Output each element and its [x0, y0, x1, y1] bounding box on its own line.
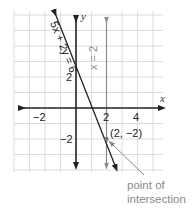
intersection-point: [104, 137, 108, 141]
annotation-line-1: point of: [127, 178, 186, 192]
annotation-text: point of intersection: [127, 178, 186, 206]
x-tick-4: 4: [133, 111, 139, 123]
x-axis-label: x: [159, 92, 165, 104]
x-tick-2: 2: [103, 111, 109, 123]
annotation-line-2: intersection: [127, 192, 186, 206]
line-label-x-equals-2: x = 2: [87, 46, 99, 70]
grid: [14, 11, 163, 172]
intersection-label: (2, −2): [110, 127, 142, 139]
y-axis-label: y: [80, 10, 86, 22]
y-tick-neg2: −2: [60, 133, 73, 145]
x-tick-neg2: −2: [33, 111, 46, 123]
line-label-5x-2y-6: 5x + 2y = 6: [48, 19, 80, 74]
